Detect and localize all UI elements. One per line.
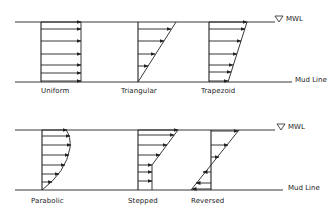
label-uniform: Uniform <box>41 87 70 95</box>
profile-stepped <box>138 130 178 190</box>
mud-line-label-bottom: Mud Line <box>288 184 320 192</box>
water-level-triangle-icon <box>275 16 283 22</box>
profile-parabolic <box>42 130 71 190</box>
water-level-triangle-icon <box>277 124 285 130</box>
profile-triangular <box>138 22 176 82</box>
mwl-label-top: MWL <box>286 15 303 23</box>
label-reversed: Reversed <box>191 197 224 205</box>
label-trapezoid: Trapezoid <box>201 87 235 95</box>
mwl-label-bottom: MWL <box>288 123 305 131</box>
profile-uniform <box>41 22 81 82</box>
profile-trapezoid <box>209 22 247 82</box>
label-parabolic: Parabolic <box>31 197 64 205</box>
label-triangular: Triangular <box>121 87 157 95</box>
velocity-profiles-diagram <box>0 0 333 217</box>
label-stepped: Stepped <box>128 197 158 205</box>
profile-reversed <box>191 130 239 190</box>
mud-line-label-top: Mud Line <box>295 76 327 84</box>
